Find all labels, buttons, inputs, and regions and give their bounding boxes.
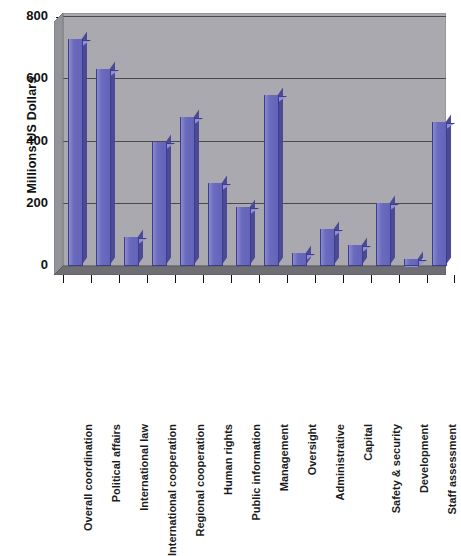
y-axis-ticks: 0200400600800 [8,0,48,285]
bar-front-face [264,95,279,266]
bar [236,208,249,266]
bar [348,246,361,266]
x-tick-label: International law [138,424,150,511]
x-tick-label: Development [418,424,430,493]
x-tick-label-text: Administrative [334,424,346,500]
x-tick-mark [147,275,148,283]
bar-front-face [404,259,419,266]
bar-front-face [180,117,195,266]
x-tick-label: Human rights [222,424,234,495]
x-tick-label-text: International cooperation [166,424,178,556]
x-tick-label-text: International law [138,424,150,511]
bar [68,40,81,266]
y-tick-label: 400 [8,133,48,148]
bar-front-face [68,39,83,266]
x-tick-mark [399,275,400,283]
x-tick-mark [454,275,455,283]
x-tick-label-text: Human rights [222,424,234,495]
x-tick-mark [175,275,176,283]
x-tick-mark [315,275,316,283]
x-tick-label-text: Regional cooperation [194,424,206,536]
x-tick-label-text: Overall coordination [82,424,94,531]
x-tick-mark [343,275,344,283]
bar-front-face [320,229,335,266]
bar-front-face [152,142,167,266]
bar [432,123,445,266]
x-tick-label: Political affairs [110,424,122,502]
bar-front-face [292,253,307,266]
x-tick-mark [63,275,64,283]
x-tick-mark [203,275,204,283]
x-tick-label-text: Public information [250,424,262,521]
x-tick-label-text: Safety & security [390,424,402,513]
bar-front-face [124,237,139,266]
y-tick-label: 200 [8,195,48,210]
bar-front-face [376,203,391,266]
x-tick-mark [371,275,372,283]
x-tick-label: Regional cooperation [194,424,206,536]
bar-front-face [208,183,223,266]
x-tick-label-text: Oversight [306,424,318,475]
y-tick-label: 0 [8,257,48,272]
x-tick-label-text: Staff assessment [446,424,458,515]
x-axis-ticks [54,275,446,284]
bar [404,260,417,266]
bar [124,238,137,266]
x-axis-labels: Overall coordinationPolitical affairsInt… [54,284,446,428]
bar [264,96,277,266]
y-tick-label: 600 [8,70,48,85]
x-tick-label: Overall coordination [82,424,94,531]
x-tick-mark [259,275,260,283]
y-tick-label: 800 [8,8,48,23]
x-tick-label: Public information [250,424,262,521]
x-tick-label-text: Development [418,424,430,493]
x-tick-mark [287,275,288,283]
bar [320,230,333,266]
bar-front-face [348,245,363,266]
bar [180,118,193,266]
x-tick-label-text: Capital [362,424,374,461]
bar-front-face [236,207,251,266]
x-tick-mark [427,275,428,283]
x-tick-label: Oversight [306,424,318,475]
x-tick-label: Staff assessment [446,424,458,515]
plot-area [54,13,446,275]
x-tick-mark [91,275,92,283]
x-tick-label: Capital [362,424,374,461]
bar [292,254,305,266]
x-tick-label: Safety & security [390,424,402,513]
x-tick-mark [231,275,232,283]
x-tick-label-text: Political affairs [110,424,122,502]
x-tick-label-text: Management [278,424,290,491]
bar-front-face [96,69,111,266]
bar [376,204,389,266]
x-tick-label: International cooperation [166,424,178,556]
bar-series [54,13,446,275]
bar-front-face [432,122,447,266]
bar [208,184,221,266]
bar [96,70,109,266]
x-tick-label: Administrative [334,424,346,500]
bar [152,143,165,266]
x-tick-mark [119,275,120,283]
x-tick-label: Management [278,424,290,491]
